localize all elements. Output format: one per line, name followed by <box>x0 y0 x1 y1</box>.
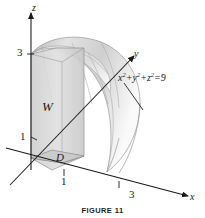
z-axis-label: z <box>32 3 36 13</box>
y-axis-label: y <box>134 49 138 59</box>
sphere-equation-label: x2+y2+z2=9 <box>118 72 166 83</box>
x-tick-label-1: 1 <box>61 176 67 187</box>
eq-nine: 9 <box>161 72 166 83</box>
three-d-diagram-svg <box>0 0 205 218</box>
figure-container: z y x 3 1 1 3 W D x2+y2+z2=9 FIGURE 11 <box>0 0 205 218</box>
x-axis-line <box>6 148 188 196</box>
z-tick-label-3: 3 <box>17 47 23 58</box>
eq-plus-2: + <box>140 72 147 83</box>
x-tick-label-3: 3 <box>129 189 135 200</box>
solid-region-label: W <box>42 100 53 113</box>
figure-caption: FIGURE 11 <box>0 206 205 215</box>
base-domain-label: D <box>56 152 64 163</box>
eq-equals: = <box>154 72 161 83</box>
z-tick-label-1: 1 <box>20 131 26 142</box>
x-axis-label: x <box>190 192 194 202</box>
